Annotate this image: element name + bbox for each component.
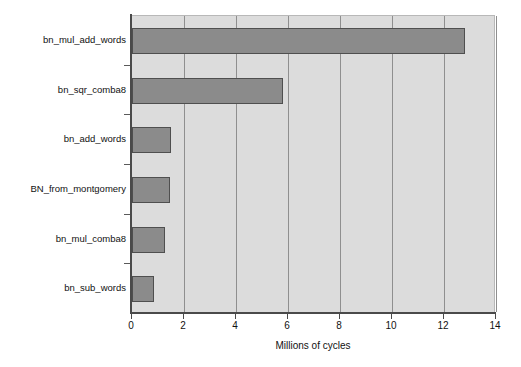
gridline-14 (496, 16, 497, 312)
plot-area (131, 15, 495, 313)
bar-chart: bn_mul_add_wordsbn_sqr_comba8bn_add_word… (0, 0, 521, 367)
bar (132, 276, 154, 302)
x-axis-tick-label: 0 (116, 320, 146, 332)
y-axis-label: bn_sub_words (2, 283, 126, 293)
x-axis-line (130, 312, 496, 314)
gridline-2 (184, 16, 185, 312)
x-axis-tick (287, 314, 288, 319)
x-axis-tick (183, 314, 184, 319)
x-axis-tick (495, 314, 496, 319)
y-axis-line (130, 14, 132, 314)
x-axis-tick-label: 12 (428, 320, 458, 332)
x-axis-tick-label: 2 (168, 320, 198, 332)
x-axis-tick-label: 10 (376, 320, 406, 332)
y-axis-label: bn_mul_add_words (2, 35, 126, 45)
x-axis-tick-label: 4 (220, 320, 250, 332)
y-axis-labels: bn_mul_add_wordsbn_sqr_comba8bn_add_word… (0, 15, 126, 313)
bar (132, 227, 165, 253)
x-axis-tick-label: 6 (272, 320, 302, 332)
gridline-8 (340, 16, 341, 312)
bar (132, 177, 170, 203)
bar (132, 127, 171, 153)
x-axis-tick (391, 314, 392, 319)
x-axis-tick (235, 314, 236, 319)
bar (132, 78, 283, 104)
y-axis-label: bn_mul_comba8 (2, 234, 126, 244)
x-axis-tick (131, 314, 132, 319)
x-axis-tick-label: 14 (480, 320, 510, 332)
gridline-4 (236, 16, 237, 312)
y-axis-label: bn_sqr_comba8 (2, 85, 126, 95)
y-axis-label: bn_add_words (2, 134, 126, 144)
y-axis-label: BN_from_montgomery (2, 184, 126, 194)
x-axis-tick (443, 314, 444, 319)
gridline-12 (444, 16, 445, 312)
x-axis-title: Millions of cycles (131, 340, 495, 351)
gridline-10 (392, 16, 393, 312)
bar (132, 28, 465, 54)
x-axis-tick (339, 314, 340, 319)
gridline-6 (288, 16, 289, 312)
x-axis-tick-label: 8 (324, 320, 354, 332)
